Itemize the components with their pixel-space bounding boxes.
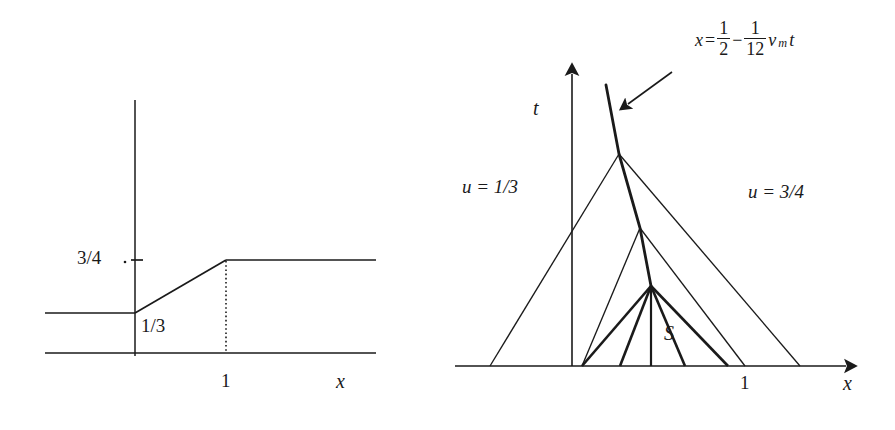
figure-svg xyxy=(0,0,895,430)
shock-equation-lhs: x xyxy=(695,31,703,49)
shock-equation-factor-subscript: m xyxy=(778,37,787,49)
left-panel-group xyxy=(45,100,376,356)
left-tick-label-one: 1 xyxy=(221,371,231,390)
left-profile-ramp xyxy=(135,260,226,313)
shock-equation-pointer-arrow xyxy=(628,72,672,104)
fraction-denominator: 2 xyxy=(717,39,730,58)
left-axis-label-x: x xyxy=(336,371,345,391)
right-tick-label-one: 1 xyxy=(740,373,750,392)
fan-ray-2 xyxy=(620,286,651,366)
right-axis-label-x: x xyxy=(843,373,852,393)
fraction-numerator: 1 xyxy=(717,19,730,39)
shock-equation-variable-t: t xyxy=(789,31,794,49)
state-label-left: u = 1/3 xyxy=(462,177,518,196)
left-label-one-third: 1/3 xyxy=(141,316,165,335)
characteristic-left-inner xyxy=(582,228,640,366)
shock-equation-minus: − xyxy=(732,31,742,49)
fraction-numerator: 1 xyxy=(744,19,766,39)
right-panel-group xyxy=(455,72,846,366)
shock-equation-equals: = xyxy=(705,31,715,49)
fraction-denominator: 12 xyxy=(744,39,766,58)
fan-label-s: S xyxy=(664,323,674,343)
shock-equation-fraction-one-half: 1 2 xyxy=(717,19,730,59)
figure-container: 3/4 1/3 1 x t x 1 u = 1/3 u = 3/4 S x = … xyxy=(0,0,895,430)
fan-ray-1 xyxy=(582,286,651,366)
shock-equation-fraction-one-twelfth: 1 12 xyxy=(744,19,766,59)
state-label-right: u = 3/4 xyxy=(748,182,804,201)
fan-ray-5 xyxy=(651,286,728,366)
right-axis-label-t: t xyxy=(533,98,539,118)
shock-equation: x = 1 2 − 1 12 vm t xyxy=(695,20,794,60)
shock-equation-factor-v: v xyxy=(768,31,776,49)
left-label-three-quarters: 3/4 xyxy=(77,248,101,267)
left-tick-dot xyxy=(124,261,127,264)
